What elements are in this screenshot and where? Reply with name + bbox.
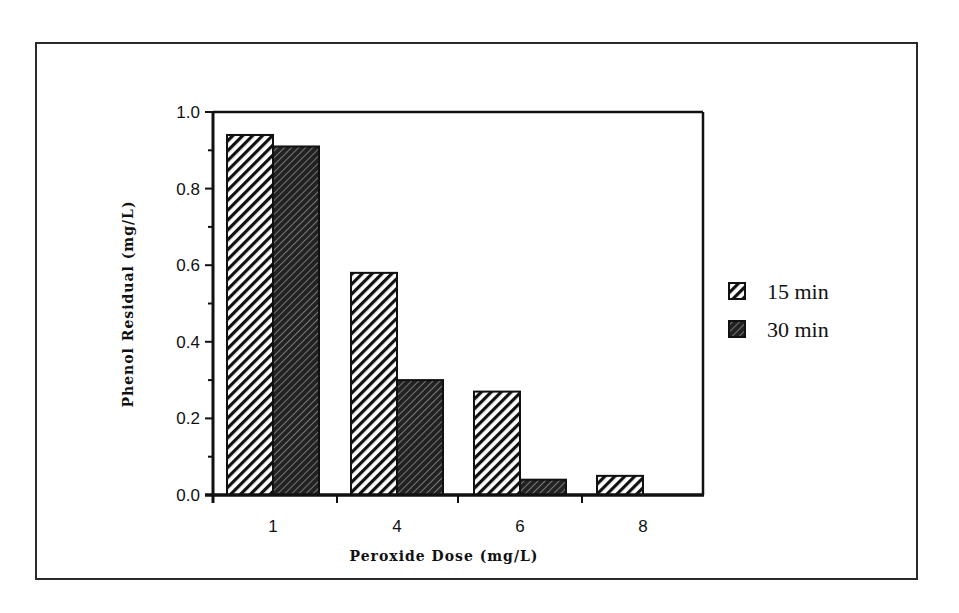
y-axis-title: Phenol Residual (mg/L) bbox=[120, 200, 136, 407]
legend-swatch-15-min bbox=[729, 283, 745, 299]
bar-30-min-dose-6 bbox=[520, 480, 566, 495]
bar-30-min-dose-4 bbox=[397, 380, 443, 495]
legend-label: 15 min bbox=[767, 279, 829, 304]
bar-chart: 0.00.20.40.60.81.0 1468 Phenol Residual … bbox=[0, 0, 959, 613]
bar-15-min-dose-6 bbox=[474, 392, 520, 495]
y-tick-label: 0.2 bbox=[176, 409, 200, 428]
plot-area bbox=[213, 112, 703, 495]
x-tick-label: 6 bbox=[515, 517, 524, 536]
x-axis-title: Peroxide Dose (mg/L) bbox=[350, 548, 539, 564]
x-tick-label: 4 bbox=[392, 517, 401, 536]
bar-15-min-dose-4 bbox=[351, 273, 397, 495]
y-tick-label: 0.0 bbox=[176, 486, 200, 505]
y-axis: 0.00.20.40.60.81.0 bbox=[176, 103, 213, 505]
x-tick-label: 1 bbox=[268, 517, 277, 536]
y-tick-label: 0.4 bbox=[176, 333, 200, 352]
y-tick-label: 0.6 bbox=[176, 256, 200, 275]
x-tick-label: 8 bbox=[638, 517, 647, 536]
y-tick-label: 0.8 bbox=[176, 180, 200, 199]
legend: 15 min30 min bbox=[729, 279, 829, 342]
y-tick-label: 1.0 bbox=[176, 103, 200, 122]
bar-15-min-dose-8 bbox=[597, 476, 643, 495]
x-axis: 1468 bbox=[205, 495, 704, 536]
legend-label: 30 min bbox=[767, 317, 829, 342]
legend-swatch-30-min bbox=[729, 321, 745, 337]
bar-30-min-dose-1 bbox=[273, 146, 319, 495]
bar-15-min-dose-1 bbox=[227, 135, 273, 495]
